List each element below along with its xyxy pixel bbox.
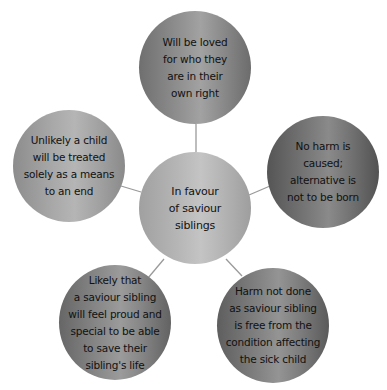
connector-bottom-right: [226, 259, 242, 276]
node-harm-not-done: Harm not done as saviour sibling is free…: [217, 268, 329, 383]
spider-diagram: Will be loved for who they are in their …: [0, 0, 387, 390]
node-label: Likely that a saviour sibling will feel …: [68, 272, 161, 374]
node-will-be-loved: Will be loved for who they are in their …: [139, 11, 251, 124]
node-label: Will be loved for who they are in their …: [163, 34, 228, 102]
node-feel-proud: Likely that a saviour sibling will feel …: [59, 265, 171, 380]
node-label: Harm not done as saviour sibling is free…: [226, 283, 321, 368]
center-node: In favour of saviour siblings: [139, 152, 251, 264]
node-unlikely-means-to-end: Unlikely a child will be treated solely …: [13, 110, 125, 222]
node-label: Unlikely a child will be treated solely …: [24, 132, 115, 200]
connector-left: [121, 186, 141, 192]
connector-right: [249, 186, 270, 195]
center-label: In favour of saviour siblings: [169, 183, 221, 234]
node-no-harm-caused: No harm is caused; alternative is not to…: [267, 116, 379, 228]
node-label: No harm is caused; alternative is not to…: [287, 138, 359, 206]
